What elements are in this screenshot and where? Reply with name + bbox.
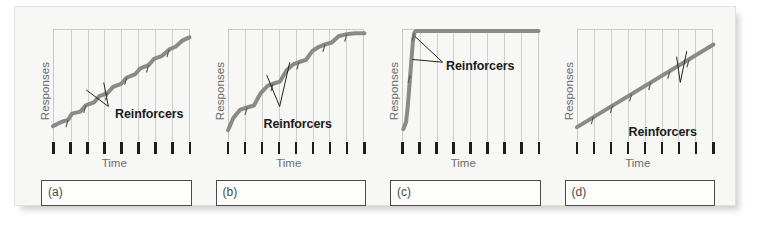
chart-panel-c: ResponsesReinforcersTime(c) <box>376 13 551 199</box>
answer-box-d[interactable]: (d) <box>565 180 716 206</box>
reinforcers-callout-label: Reinforcers <box>446 59 514 73</box>
x-axis-tick <box>227 142 230 154</box>
callout-leader-line <box>266 75 279 106</box>
x-axis-tick <box>295 142 298 154</box>
x-axis-tick <box>695 142 698 154</box>
chart-panel-d: ResponsesReinforcersTime(d) <box>551 13 726 199</box>
x-axis-tick <box>401 142 404 154</box>
x-axis-tick <box>120 142 123 154</box>
x-axis-ticks <box>402 141 539 155</box>
x-axis-tick <box>644 142 647 154</box>
panel-tag-c: (c) <box>397 185 411 199</box>
x-axis-tick <box>86 142 89 154</box>
x-axis-tick <box>189 142 192 154</box>
x-axis-tick <box>627 142 630 154</box>
x-axis-tick <box>678 142 681 154</box>
x-axis-tick <box>520 142 523 154</box>
x-axis-tick <box>154 142 157 154</box>
chart-panel-b: ResponsesReinforcersTime(b) <box>202 13 377 199</box>
figure-container: ResponsesReinforcersTime(a)ResponsesRein… <box>14 6 736 206</box>
reinforcers-callout-label: Reinforcers <box>115 107 183 121</box>
x-axis-tick <box>103 142 106 154</box>
x-axis-tick <box>610 142 613 154</box>
callout-leader-line <box>412 59 442 62</box>
x-axis-label: Time <box>202 157 377 169</box>
panel-tag-a: (a) <box>48 185 63 199</box>
x-axis-tick <box>261 142 264 154</box>
record-line <box>577 44 713 127</box>
panel-row: ResponsesReinforcersTime(a)ResponsesRein… <box>15 7 735 205</box>
x-axis-tick <box>661 142 664 154</box>
x-axis-tick <box>312 142 315 154</box>
x-axis-tick <box>452 142 455 154</box>
x-axis-tick <box>244 142 247 154</box>
callout-leader-line <box>415 36 443 62</box>
x-axis-tick <box>538 142 541 154</box>
panel-tag-b: (b) <box>223 185 238 199</box>
x-axis-tick <box>171 142 174 154</box>
x-axis-tick <box>69 142 72 154</box>
x-axis-tick <box>346 142 349 154</box>
x-axis-tick <box>593 142 596 154</box>
callout-leader-line <box>676 57 680 83</box>
reinforcers-callout-label: Reinforcers <box>629 125 697 139</box>
cumulative-record-d <box>577 29 713 132</box>
plot-area-c <box>402 29 539 141</box>
panel-tag-d: (d) <box>572 185 587 199</box>
x-axis-tick <box>329 142 332 154</box>
x-axis-label: Time <box>27 157 202 169</box>
record-line <box>228 33 364 130</box>
answer-box-a[interactable]: (a) <box>41 180 192 206</box>
x-axis-ticks <box>228 141 365 155</box>
x-axis-tick <box>137 142 140 154</box>
cumulative-record-c <box>402 29 538 132</box>
x-axis-ticks <box>53 141 190 155</box>
x-axis-tick <box>363 142 366 154</box>
answer-box-c[interactable]: (c) <box>390 180 541 206</box>
record-line <box>403 31 538 129</box>
chart-panel-a: ResponsesReinforcersTime(a) <box>27 13 202 199</box>
x-axis-tick <box>469 142 472 154</box>
x-axis-tick <box>576 142 579 154</box>
x-axis-label: Time <box>551 157 726 169</box>
x-axis-label: Time <box>376 157 551 169</box>
x-axis-tick <box>52 142 55 154</box>
callout-leader-line <box>279 62 289 106</box>
x-axis-tick <box>712 142 715 154</box>
answer-box-b[interactable]: (b) <box>216 180 367 206</box>
x-axis-tick <box>486 142 489 154</box>
callout-leader-line <box>680 51 686 82</box>
x-axis-tick <box>435 142 438 154</box>
x-axis-ticks <box>577 141 714 155</box>
x-axis-tick <box>418 142 421 154</box>
reinforcers-callout-label: Reinforcers <box>264 117 332 131</box>
plot-area-a <box>53 29 190 141</box>
x-axis-tick <box>278 142 281 154</box>
x-axis-tick <box>503 142 506 154</box>
